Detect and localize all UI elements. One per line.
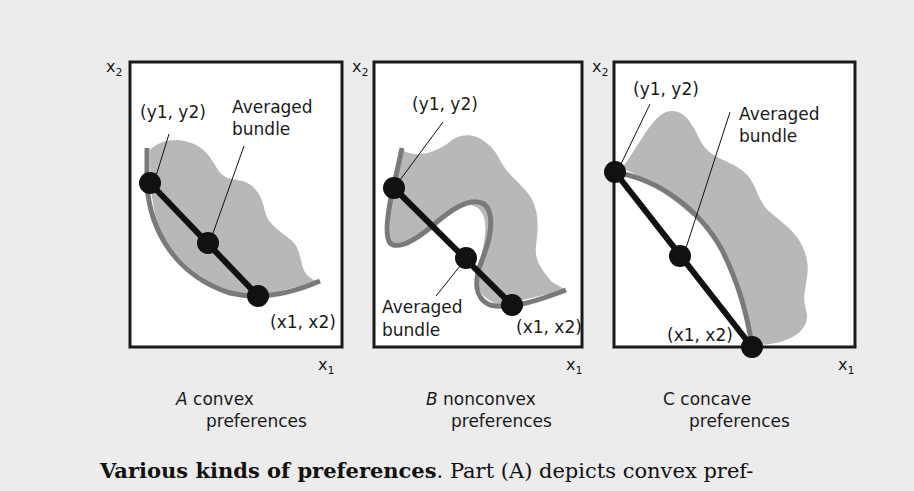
panel-b-title-line2: preferences xyxy=(426,410,552,432)
panel-b-caption: B nonconvex preferences xyxy=(426,388,552,432)
panel-a-x-axis-label: x1 xyxy=(318,355,334,377)
panel-b-point-x xyxy=(501,294,523,316)
panel-c-caption: C concave preferences xyxy=(663,388,790,432)
panel-c-x-axis-label: x1 xyxy=(838,355,854,377)
figure-caption-rest: . Part (A) depicts convex pref- xyxy=(437,459,754,483)
panel-c-averaged-label-line1: Averaged xyxy=(739,104,820,124)
panel-a-averaged-label-line2: bundle xyxy=(232,119,290,139)
panel-a-y-axis-label: x2 xyxy=(106,57,122,79)
figure-caption-bold: Various kinds of preferences xyxy=(100,458,437,483)
panel-b-point-x-label: (x1, x2) xyxy=(516,317,582,337)
panel-a-letter: A xyxy=(176,389,188,409)
panel-c-letter: C xyxy=(663,389,675,409)
panel-c-y-axis-label: x2 xyxy=(592,57,608,79)
panel-b-x-axis-label: x1 xyxy=(566,355,582,377)
panel-b-point-y-label: (y1, y2) xyxy=(412,94,478,114)
panel-b-point-y xyxy=(383,177,405,199)
panel-a-point-y-label: (y1, y2) xyxy=(140,102,206,122)
panel-a-point-x xyxy=(247,285,269,307)
panel-b-y-axis-label: x2 xyxy=(352,57,368,79)
panel-a-point-x-label: (x1, x2) xyxy=(270,312,336,332)
panel-a-point-averaged xyxy=(197,232,219,254)
figure-caption: Various kinds of preferences. Part (A) d… xyxy=(100,458,753,483)
panel-a-title-word: convex xyxy=(193,389,254,409)
panel-c-point-x-label: (x1, x2) xyxy=(667,325,733,345)
panel-c-point-averaged xyxy=(669,245,691,267)
panel-b-point-averaged xyxy=(455,247,477,269)
panel-c-title-line2: preferences xyxy=(663,410,790,432)
panel-b-averaged-label-line2: bundle xyxy=(382,320,440,340)
panel-c-averaged-label-line2: bundle xyxy=(739,126,797,146)
panel-a-caption: A convex preferences xyxy=(176,388,307,432)
panel-a-point-y xyxy=(139,172,161,194)
panel-b-averaged-label-line1: Averaged xyxy=(382,297,463,317)
panel-a-title-line2: preferences xyxy=(176,410,307,432)
panel-c-point-y-label: (y1, y2) xyxy=(633,79,699,99)
panel-b-letter: B xyxy=(426,389,438,409)
panel-c-title-word: concave xyxy=(680,389,751,409)
panel-a-averaged-label-line1: Averaged xyxy=(232,97,313,117)
panel-c-point-y xyxy=(604,161,626,183)
panel-b-title-word: nonconvex xyxy=(443,389,536,409)
preferences-figure: x2 x1 (y1, y2) Averaged bundle (x1, x2) … xyxy=(0,0,914,491)
panel-c-point-x xyxy=(741,336,763,358)
